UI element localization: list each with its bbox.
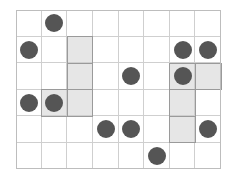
board-cell[interactable] xyxy=(16,116,42,143)
board-cell[interactable] xyxy=(16,10,42,37)
board-cell[interactable] xyxy=(93,63,119,90)
board-cell[interactable] xyxy=(170,143,196,170)
board-cell[interactable] xyxy=(42,116,68,143)
board-cell[interactable] xyxy=(67,143,93,170)
game-piece[interactable] xyxy=(20,94,38,112)
board-cell[interactable] xyxy=(144,63,170,90)
board-cell[interactable] xyxy=(195,10,221,37)
game-piece[interactable] xyxy=(174,67,192,85)
board-cell[interactable] xyxy=(144,37,170,64)
board-cell[interactable] xyxy=(93,90,119,117)
board-cell[interactable] xyxy=(170,90,196,117)
board-cell[interactable] xyxy=(16,63,42,90)
board-cell[interactable] xyxy=(67,10,93,37)
board-cell[interactable] xyxy=(170,116,196,143)
board-cell[interactable] xyxy=(67,90,93,117)
game-piece[interactable] xyxy=(97,120,115,138)
game-piece[interactable] xyxy=(174,41,192,59)
board-cell[interactable] xyxy=(144,10,170,37)
board-cell[interactable] xyxy=(93,37,119,64)
board-cell[interactable] xyxy=(170,10,196,37)
board-cell[interactable] xyxy=(67,116,93,143)
board-cell[interactable] xyxy=(42,143,68,170)
board-cell[interactable] xyxy=(119,90,145,117)
board-cell[interactable] xyxy=(119,37,145,64)
board-cell[interactable] xyxy=(67,37,93,64)
board-cell[interactable] xyxy=(119,10,145,37)
game-piece[interactable] xyxy=(20,41,38,59)
board-cell[interactable] xyxy=(195,143,221,170)
board-cell[interactable] xyxy=(195,63,221,90)
game-board xyxy=(16,10,221,169)
game-piece[interactable] xyxy=(148,147,166,165)
board-cell[interactable] xyxy=(144,90,170,117)
board-cell[interactable] xyxy=(119,143,145,170)
board-cell[interactable] xyxy=(42,37,68,64)
game-piece[interactable] xyxy=(199,41,217,59)
board-cell[interactable] xyxy=(67,63,93,90)
board-cell[interactable] xyxy=(42,63,68,90)
board-cell[interactable] xyxy=(16,143,42,170)
board-cell[interactable] xyxy=(144,116,170,143)
board-cell[interactable] xyxy=(93,10,119,37)
board-cell[interactable] xyxy=(195,90,221,117)
board-cell[interactable] xyxy=(93,143,119,170)
